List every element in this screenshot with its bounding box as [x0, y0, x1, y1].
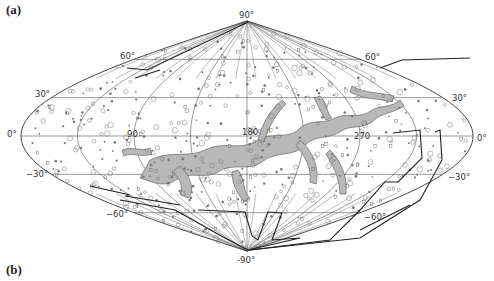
source-circle [254, 173, 257, 176]
source-dot [104, 141, 106, 143]
source-dot [405, 112, 407, 114]
source-dot [103, 105, 105, 107]
source-dot [386, 101, 388, 103]
source-dot [83, 123, 85, 125]
source-dot [351, 164, 353, 166]
source-dot [249, 190, 251, 192]
source-circle [278, 203, 282, 207]
source-dot [183, 168, 185, 170]
source-dot [321, 53, 323, 55]
source-circle [326, 219, 330, 223]
source-circle [172, 127, 177, 132]
source-circle [417, 167, 423, 173]
source-dot [143, 135, 146, 138]
source-dot [182, 158, 185, 161]
source-circle [233, 200, 236, 203]
meridian-line [236, 21, 247, 79]
source-dot [254, 66, 256, 68]
source-dot [127, 187, 129, 189]
source-box [321, 144, 323, 147]
source-circle [216, 182, 221, 187]
source-dot [370, 150, 372, 152]
source-circle [124, 89, 128, 93]
source-dot [172, 216, 174, 218]
source-circle [228, 203, 231, 206]
source-dot [163, 211, 165, 213]
source-circle [108, 171, 113, 176]
source-circle [438, 168, 443, 173]
source-circle [151, 97, 156, 102]
source-dot [285, 47, 287, 49]
label-south-pole: -90° [237, 255, 255, 265]
source-dot [109, 93, 112, 96]
source-dot [60, 160, 62, 162]
source-dot [236, 212, 239, 215]
source-circle [358, 80, 363, 85]
source-dot [174, 136, 176, 138]
source-dot [294, 103, 296, 105]
source-circle [397, 89, 403, 95]
source-circle [68, 136, 73, 141]
source-circle [274, 195, 278, 199]
source-dot [298, 103, 301, 106]
source-dot [281, 184, 283, 186]
source-circle [305, 96, 310, 101]
source-dot [99, 149, 101, 151]
source-circle [100, 132, 103, 135]
source-circle [297, 71, 302, 76]
source-box [328, 101, 330, 104]
source-circle [90, 88, 93, 91]
source-dot [154, 161, 156, 163]
source-dot [255, 157, 257, 159]
source-circle [108, 122, 113, 127]
source-dot [260, 156, 263, 159]
meridian-line [247, 21, 356, 79]
source-dot [34, 127, 36, 129]
source-circle [92, 140, 96, 144]
source-box [363, 200, 365, 203]
source-dot [261, 105, 264, 108]
source-dot [275, 171, 278, 174]
source-dot [417, 100, 420, 103]
source-circle [62, 167, 66, 171]
source-dot [346, 138, 349, 141]
source-circle [285, 34, 289, 38]
source-circle [292, 88, 297, 93]
source-circle [368, 160, 373, 165]
source-dot [82, 92, 84, 94]
source-box [184, 106, 186, 109]
source-dot [106, 82, 108, 84]
source-dot [268, 93, 270, 95]
source-box [388, 188, 390, 191]
source-circle [220, 70, 225, 75]
source-dot [38, 133, 40, 135]
label-latm30-left: −30° [26, 169, 48, 179]
source-circle [101, 109, 105, 113]
label-latm60-left: −60° [106, 209, 128, 219]
source-dot [142, 176, 145, 179]
source-circle [170, 93, 174, 97]
source-dot [230, 82, 232, 84]
source-dot [184, 47, 187, 50]
source-dot [318, 98, 320, 100]
source-dot [135, 98, 137, 100]
source-circle [286, 86, 289, 89]
source-dot [298, 217, 300, 219]
source-circle [222, 61, 226, 65]
source-dot [324, 135, 326, 137]
source-dot [298, 137, 301, 140]
source-dot [114, 141, 117, 144]
source-circle [463, 119, 466, 122]
source-dot [245, 200, 247, 202]
source-circle [280, 190, 283, 193]
source-circle [283, 210, 287, 214]
source-dot [274, 56, 276, 58]
source-circle [445, 164, 450, 169]
label-lat30-left: 30° [35, 89, 50, 99]
source-dot [205, 177, 207, 179]
source-dot [273, 136, 275, 138]
source-circle [49, 105, 54, 110]
source-dot [167, 159, 169, 161]
source-dot [194, 104, 197, 107]
source-dot [111, 100, 114, 103]
